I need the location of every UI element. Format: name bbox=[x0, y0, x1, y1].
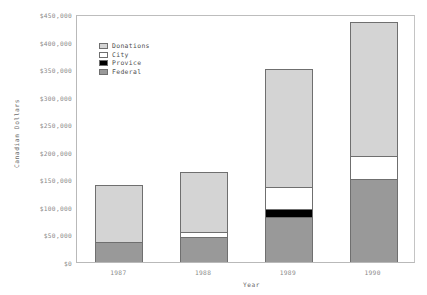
x-axis-tick-label: 1988 bbox=[173, 269, 233, 276]
legend-item-label: City bbox=[112, 52, 129, 58]
legend-item-label: Donations bbox=[112, 43, 150, 49]
legend-item-provice: Provice bbox=[99, 59, 150, 68]
bar-1987 bbox=[95, 185, 143, 262]
x-axis-tick-label: 1990 bbox=[343, 269, 403, 276]
bar-segment-city bbox=[265, 187, 313, 209]
x-axis-tick-label: 1989 bbox=[258, 269, 318, 276]
x-axis-tick-label: 1987 bbox=[88, 269, 148, 276]
bar-segment-provice bbox=[265, 209, 313, 217]
bar-segment-donations bbox=[350, 22, 398, 156]
bar-segment-donations bbox=[180, 172, 228, 232]
bar-segment-federal bbox=[180, 237, 228, 262]
y-axis-tick-label: $200,000 bbox=[14, 149, 72, 156]
bar-segment-federal bbox=[350, 179, 398, 262]
bar-segment-city bbox=[350, 156, 398, 179]
bar-1988 bbox=[180, 172, 228, 262]
stacked-bar-chart-figure: Canadian Dollars $0$50,000$100,000$150,0… bbox=[0, 0, 427, 295]
legend-item-donations: Donations bbox=[99, 42, 150, 51]
y-axis-tick-labels: $0$50,000$100,000$150,000$200,000$250,00… bbox=[12, 0, 72, 295]
bar-1990 bbox=[350, 22, 398, 262]
legend-swatch-icon bbox=[99, 60, 108, 66]
legend-item-label: Provice bbox=[112, 60, 141, 66]
bar-segment-donations bbox=[95, 185, 143, 242]
y-axis-tick-label: $150,000 bbox=[14, 177, 72, 184]
y-axis-tick-label: $400,000 bbox=[14, 39, 72, 46]
chart-legend: DonationsCityProviceFederal bbox=[99, 42, 150, 76]
bar-segment-donations bbox=[265, 69, 313, 187]
y-axis-tick-label: $0 bbox=[14, 260, 72, 267]
y-axis-tick-label: $50,000 bbox=[14, 232, 72, 239]
y-axis-tick-label: $100,000 bbox=[14, 204, 72, 211]
x-axis-title: Year bbox=[0, 281, 427, 288]
legend-item-city: City bbox=[99, 51, 150, 60]
y-axis-tick-label: $350,000 bbox=[14, 67, 72, 74]
y-axis-tick-label: $250,000 bbox=[14, 122, 72, 129]
bar-segment-federal bbox=[265, 217, 313, 262]
legend-item-label: Federal bbox=[112, 69, 141, 75]
y-axis-tick-label: $300,000 bbox=[14, 94, 72, 101]
legend-swatch-icon bbox=[99, 69, 108, 75]
legend-item-federal: Federal bbox=[99, 68, 150, 77]
legend-swatch-icon bbox=[99, 52, 108, 58]
legend-swatch-icon bbox=[99, 43, 108, 49]
bar-segment-federal bbox=[95, 242, 143, 262]
y-axis-tick-label: $450,000 bbox=[14, 12, 72, 19]
bar-1989 bbox=[265, 69, 313, 262]
